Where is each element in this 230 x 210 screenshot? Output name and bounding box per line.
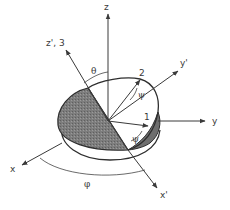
body-axis-1 <box>108 121 148 126</box>
y-label: y <box>212 116 218 126</box>
psi-arc-upper <box>130 88 137 100</box>
phi-arc <box>40 158 145 175</box>
y-prime-label: y' <box>180 58 188 68</box>
z-prime-3-label: z', 3 <box>46 38 65 48</box>
psi-label-lower: ψ <box>132 134 139 144</box>
shaded-half-disk <box>58 88 128 150</box>
phi-label: φ <box>84 179 90 189</box>
psi-label-upper: ψ <box>138 90 145 100</box>
z-label: z <box>104 2 109 12</box>
x-label: x <box>10 164 16 174</box>
x-prime-label: x' <box>160 190 168 200</box>
euler-angles-diagram: z z', 3 y' y x x' 2 1 θ ψ ψ φ <box>0 0 230 210</box>
axis-2-label: 2 <box>139 68 145 78</box>
axis-1-label: 1 <box>144 112 150 122</box>
body-axis-2 <box>108 80 140 121</box>
x-axis <box>22 143 62 165</box>
theta-label: θ <box>91 66 96 76</box>
x-prime-axis <box>128 150 157 188</box>
